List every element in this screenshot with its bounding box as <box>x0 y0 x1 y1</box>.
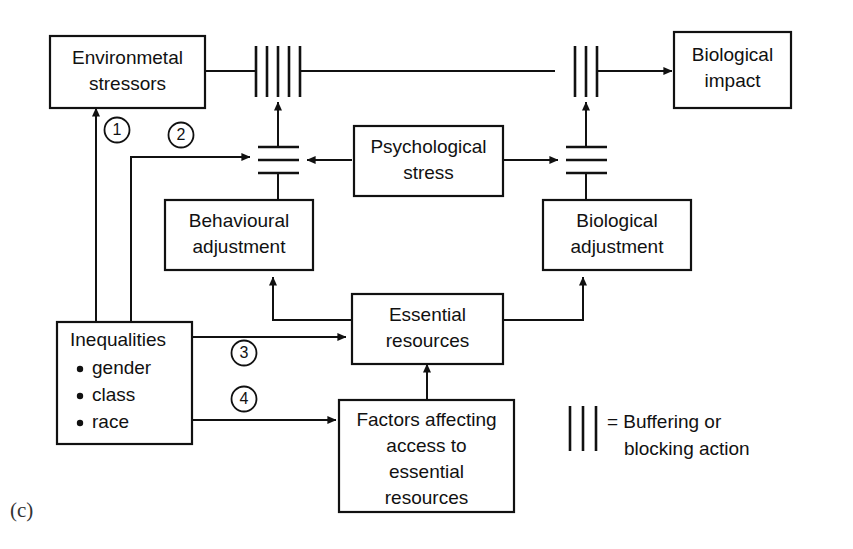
legend-buffer-symbol-icon <box>570 406 596 451</box>
buffer-junction-left <box>258 147 299 200</box>
marker-four-label: 4 <box>240 390 249 407</box>
marker-two-label: 2 <box>177 126 186 143</box>
bullet-icon <box>77 420 83 426</box>
marker-one: 1 <box>105 118 130 143</box>
box-inequalities: Inequalities gender class race <box>57 322 192 444</box>
box-psychological-stress-line1: Psychological <box>370 136 486 157</box>
box-essential-resources-line2: resources <box>386 330 469 351</box>
connector-essential-to-behavioural <box>273 277 352 320</box>
marker-one-label: 1 <box>113 121 122 138</box>
box-inequalities-title: Inequalities <box>70 329 166 350</box>
box-behavioural-adjustment-line1: Behavioural <box>189 210 289 231</box>
bullet-icon <box>77 366 83 372</box>
box-biological-adjustment: Biological adjustment <box>543 200 691 270</box>
box-essential-resources: Essential resources <box>352 294 503 364</box>
stress-buffering-diagram: Environmetal stressors Biological impact… <box>0 0 853 549</box>
marker-two: 2 <box>169 123 194 148</box>
box-essential-resources-line1: Essential <box>389 304 466 325</box>
box-environmental-stressors-line2: stressors <box>89 73 166 94</box>
box-environmental-stressors: Environmetal stressors <box>50 36 205 108</box>
legend-line1: = Buffering or <box>607 411 722 432</box>
box-biological-impact-line2: impact <box>705 70 762 91</box>
panel-label: (c) <box>10 498 33 522</box>
box-factors-line1: Factors affecting <box>356 409 496 430</box>
box-inequalities-item-1: class <box>92 384 135 405</box>
box-psychological-stress: Psychological stress <box>354 126 503 196</box>
box-behavioural-adjustment-line2: adjustment <box>193 236 287 257</box>
legend-line2: blocking action <box>624 438 750 459</box>
box-psychological-stress-line2: stress <box>403 162 454 183</box>
box-inequalities-item-0: gender <box>92 357 152 378</box>
marker-three: 3 <box>232 341 257 366</box>
figure-panel-c: Environmetal stressors Biological impact… <box>0 0 853 549</box>
box-biological-adjustment-line2: adjustment <box>571 236 665 257</box>
marker-three-label: 3 <box>240 344 249 361</box>
marker-four: 4 <box>232 387 257 412</box>
box-factors-affecting-access: Factors affecting access to essential re… <box>339 400 514 512</box>
connector-essential-to-biological <box>503 277 583 320</box>
box-biological-impact-line1: Biological <box>692 44 773 65</box>
buffer-symbol-top-left <box>256 46 300 97</box>
bullet-icon <box>77 393 83 399</box>
box-factors-line2: access to <box>386 435 466 456</box>
box-factors-line3: essential <box>389 461 464 482</box>
buffer-junction-right <box>566 147 607 200</box>
buffer-symbol-top-right <box>575 46 597 97</box>
box-behavioural-adjustment: Behavioural adjustment <box>165 200 313 270</box>
legend: = Buffering or blocking action <box>570 406 750 459</box>
box-factors-line4: resources <box>385 487 468 508</box>
box-environmental-stressors-line1: Environmetal <box>72 47 183 68</box>
box-biological-adjustment-line1: Biological <box>576 210 657 231</box>
box-inequalities-item-2: race <box>92 411 129 432</box>
box-biological-impact: Biological impact <box>674 32 791 108</box>
